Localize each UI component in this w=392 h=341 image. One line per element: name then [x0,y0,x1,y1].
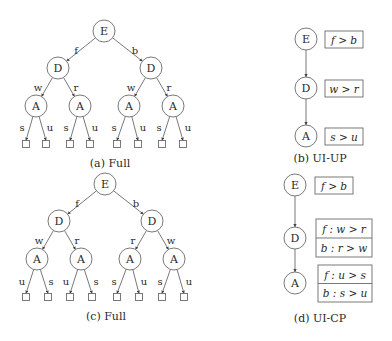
preference-box: f > b [325,31,363,48]
panels: fbwrwrsusususuEDDAAAA(a) Fullfbwrrwususs… [19,20,372,325]
panel-caption: (c) Full [86,310,126,323]
edge-A3-L5: s [111,269,126,293]
leaf-square [114,294,121,301]
edge-D2-A4: w [158,231,176,250]
edge-label: s [156,122,161,133]
node-A4: A [162,95,184,117]
edge-A4-L8: u [176,117,192,141]
leaf-L7 [159,141,166,148]
node-label: A [301,130,311,143]
preference-box: f > b [315,177,353,194]
leaf-L8 [180,141,187,148]
node-E: E [94,173,116,195]
node-label: D [54,62,63,75]
panel-caption: (a) Full [90,157,131,170]
edge-label: s [63,122,68,133]
node-label: D [55,215,64,228]
leaf-square [67,294,74,301]
leaf-square [159,141,166,148]
figure-canvas: fbwrwrsusususuEDDAAAA(a) Fullfbwrrwususs… [0,0,392,341]
edge-A1-L2: u [39,117,54,141]
preference-box: w > r [325,80,363,97]
node-label: E [302,33,310,46]
edge-E-D1: f [68,191,97,214]
leaf-square [67,141,74,148]
leaf-square [114,141,121,148]
node-label: A [75,100,85,113]
node-E: E [284,174,306,196]
edge-label: u [140,122,147,133]
edge-A1-L2: s [40,270,53,294]
edge-A4-L8: u [177,270,193,294]
edge-A3-L5: s [111,116,125,140]
preference-rule: f > b [330,34,357,46]
leaf-square [87,141,94,148]
panel-caption: (d) UI-CP [294,312,347,325]
edge-label: s [19,122,24,133]
panel-c: fbwrrwusussusuEDDAAAA(c) Full [19,173,193,323]
edge-A2-L4: u [83,117,99,141]
panel-b: Ef > bDw > rAs > u(b) UI-UP [293,28,363,165]
leaf-L6 [136,294,143,301]
edge-arrow [177,270,184,294]
edge-A1-L1: u [19,270,34,294]
edge-A1-L1: s [19,117,32,141]
edge-arrow [84,270,92,294]
edge-label: u [63,276,70,287]
node-D: D [284,227,306,249]
node-A: A [295,125,317,147]
edge-arrow [176,117,183,141]
node-label: A [76,253,86,266]
node-A1: A [26,248,48,270]
node-label: A [125,253,135,266]
edge-arrow [40,270,48,294]
leaf-L5 [114,294,121,301]
preference-rule: w > r [329,83,359,95]
edge-arrow [42,78,53,97]
edge-D1-A1: w [34,78,53,97]
edge-arrow [117,269,126,293]
edge-arrow [68,191,97,214]
edge-label: f [74,45,79,56]
edge-arrow [26,117,33,141]
edge-label: s [111,122,116,133]
leaf-L7 [159,294,166,301]
node-label: A [124,100,134,113]
leaf-L4 [89,294,96,301]
node-label: D [148,215,157,228]
edge-E-D2: b [114,191,144,214]
edge-label: w [34,82,43,93]
leaf-L2 [43,141,50,148]
leaf-L4 [87,141,94,148]
preference-box: s > u [325,128,363,145]
edge-E-D1: f [67,38,96,61]
leaf-square [45,294,52,301]
panel-caption: (b) UI-UP [293,152,347,165]
preference-box: f : w > rb : r > w [316,219,372,257]
leaf-square [23,294,30,301]
preference-rule: f > b [320,180,347,192]
leaf-square [136,294,143,301]
edge-A2-L3: u [63,270,78,294]
node-label: D [291,232,300,245]
edge-D2-A3: w [127,78,146,97]
edge-label: u [185,122,192,133]
node-A: A [284,272,306,294]
edge-arrow [26,270,34,294]
leaf-square [23,141,30,148]
node-label: E [100,25,108,38]
node-D1: D [48,210,70,232]
leaf-square [181,294,188,301]
edge-arrow [133,270,139,294]
edge-arrow [39,117,46,141]
edge-arrow [83,117,90,141]
edge-D1-A2: r [64,78,79,97]
edge-A2-L3: s [63,117,76,141]
leaf-L8 [181,294,188,301]
edge-D1-A2: r [65,231,80,250]
node-E: E [295,28,317,50]
node-label: A [168,100,178,113]
edge-arrow [162,117,170,141]
edge-label: u [19,276,26,287]
edge-E-D2: b [113,38,143,61]
